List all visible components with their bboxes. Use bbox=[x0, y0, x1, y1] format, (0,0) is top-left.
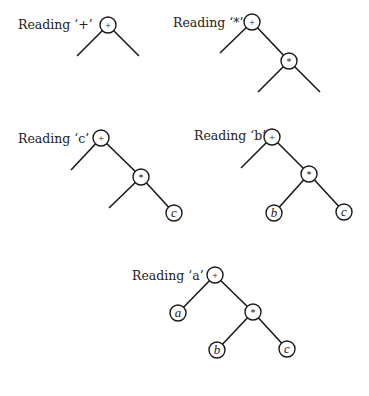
svg-text:b: b bbox=[271, 205, 278, 220]
svg-text:c: c bbox=[171, 205, 177, 220]
svg-text:a: a bbox=[175, 305, 182, 320]
svg-text:+: + bbox=[249, 17, 255, 28]
tree-label: Reading ‘c’ bbox=[18, 131, 89, 146]
tree-label: Reading ‘b’ bbox=[194, 128, 266, 143]
svg-text:*: * bbox=[287, 56, 292, 67]
parse-tree-diagram: Reading ‘+’ + Reading ‘*’ + * Reading ‘c… bbox=[0, 0, 369, 396]
tree-label: Reading ‘*’ bbox=[173, 15, 243, 30]
svg-text:*: * bbox=[139, 172, 144, 183]
tree-reading-times: Reading ‘*’ + * bbox=[173, 14, 320, 92]
svg-text:+: + bbox=[269, 132, 275, 143]
tree-reading-c: Reading ‘c’ + * c bbox=[18, 130, 182, 221]
svg-text:c: c bbox=[284, 341, 290, 356]
svg-text:+: + bbox=[212, 270, 218, 281]
tree-label: Reading ‘+’ bbox=[18, 17, 93, 32]
svg-text:c: c bbox=[341, 204, 347, 219]
svg-text:*: * bbox=[307, 169, 312, 180]
tree-label: Reading ‘a’ bbox=[132, 268, 204, 283]
tree-reading-a: Reading ‘a’ + a * b c bbox=[132, 267, 295, 358]
svg-text:*: * bbox=[251, 307, 256, 318]
svg-text:+: + bbox=[98, 133, 104, 144]
svg-text:b: b bbox=[214, 342, 221, 357]
tree-reading-b: Reading ‘b’ + * b c bbox=[194, 128, 352, 221]
tree-reading-plus: Reading ‘+’ + bbox=[18, 17, 139, 56]
svg-text:+: + bbox=[105, 20, 111, 31]
